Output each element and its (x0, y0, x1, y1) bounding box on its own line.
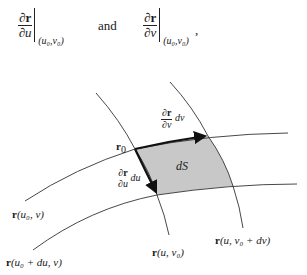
ds-patch-label: dS (176, 159, 188, 174)
curve-label-u-v0: r(u, v₀) (152, 246, 184, 258)
curve-label-u0-v: r(u₀, v) (12, 208, 44, 220)
curve-label-u0du-v: r(u₀ + du, v) (6, 256, 62, 268)
du-vector-label: ∂r ∂u du (118, 168, 140, 189)
curve-label-u-v0dv: r(u, v₀ + dv) (215, 234, 270, 246)
r0-label: r0 (116, 140, 126, 155)
dv-vector-label: ∂r ∂v dv (161, 108, 184, 130)
